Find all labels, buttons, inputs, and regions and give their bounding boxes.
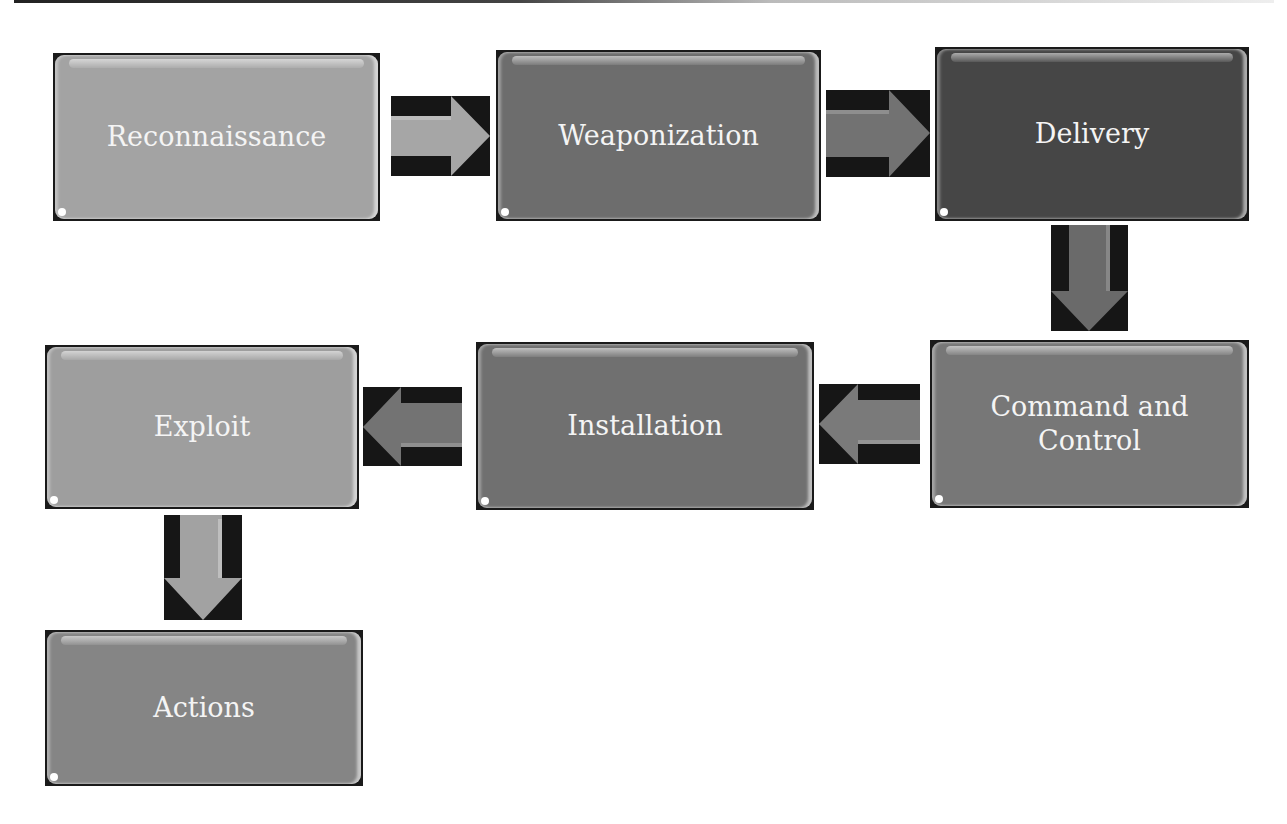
arrow-down-icon: [1051, 225, 1128, 331]
stage-weaponization: Weaponization: [496, 50, 821, 221]
arrow-right-icon: [826, 90, 930, 177]
stage-delivery: Delivery: [935, 47, 1249, 221]
stage-installation: Installation: [476, 342, 814, 510]
stage-label: Weaponization: [546, 119, 771, 153]
stage-box: Exploit: [47, 347, 357, 507]
stage-label: Command and Control: [948, 390, 1232, 458]
stage-box: Installation: [478, 344, 812, 508]
stage-box: Actions: [47, 632, 361, 784]
stage-label: Exploit: [142, 410, 263, 444]
arrow-left-icon: [819, 384, 920, 464]
stage-exploit: Exploit: [45, 345, 359, 509]
stage-label: Installation: [555, 409, 734, 443]
stage-label: Actions: [141, 691, 267, 725]
stage-label: Delivery: [1023, 117, 1161, 151]
stage-box: Command and Control: [932, 342, 1247, 506]
stage-label: Reconnaissance: [95, 120, 339, 154]
arrow-down-icon: [164, 515, 242, 620]
stage-command-and-control: Command and Control: [930, 340, 1249, 508]
arrow-left-icon: [363, 387, 462, 466]
stage-box: Delivery: [937, 49, 1247, 219]
stage-box: Weaponization: [498, 52, 819, 219]
stage-box: Reconnaissance: [55, 55, 378, 219]
stage-reconnaissance: Reconnaissance: [53, 53, 380, 221]
arrow-right-icon: [391, 96, 490, 176]
stage-actions: Actions: [45, 630, 363, 786]
top-rule: [14, 0, 1274, 3]
